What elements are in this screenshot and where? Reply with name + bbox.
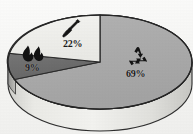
pie-chart-figure: 69% 22% 9% xyxy=(0,0,193,134)
pie-chart-graphic xyxy=(0,0,193,134)
pie-slice-landfill xyxy=(9,15,100,62)
